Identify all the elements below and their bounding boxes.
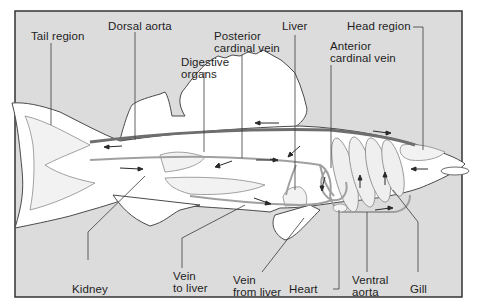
label-posterior-cardinal-vein: Posterior cardinal vein bbox=[214, 30, 280, 54]
label-vein-to-liver: Vein to liver bbox=[173, 270, 208, 294]
label-gill: Gill bbox=[410, 283, 427, 295]
heart bbox=[333, 204, 347, 212]
label-dorsal-aorta: Dorsal aorta bbox=[108, 20, 172, 32]
label-digestive-organs: Digestive organs bbox=[181, 56, 229, 80]
label-ventral-aorta: Ventral aorta bbox=[352, 274, 389, 298]
label-head-region: Head region bbox=[347, 20, 411, 32]
label-kidney: Kidney bbox=[72, 283, 108, 295]
mouth bbox=[441, 167, 469, 175]
label-liver: Liver bbox=[282, 20, 307, 32]
fish-circulation-diagram: Tail region Dorsal aorta Digestive organ… bbox=[0, 0, 477, 308]
label-anterior-cardinal-vein: Anterior cardinal vein bbox=[330, 40, 396, 64]
label-heart: Heart bbox=[289, 283, 318, 295]
label-vein-from-liver: Vein from liver bbox=[233, 274, 281, 298]
label-tail-region: Tail region bbox=[31, 30, 85, 42]
